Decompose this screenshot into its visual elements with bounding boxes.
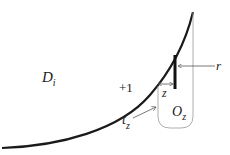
label-z: z <box>161 86 167 100</box>
boundary-curve <box>2 12 193 148</box>
label-plus-one: +1 <box>119 80 133 95</box>
label-domain: Di <box>41 69 56 88</box>
label-r: r <box>216 58 222 73</box>
label-o: Oz <box>172 104 186 122</box>
diagram-canvas: Di +1 z r tz Oz <box>0 0 230 155</box>
thick-bar <box>174 55 177 89</box>
